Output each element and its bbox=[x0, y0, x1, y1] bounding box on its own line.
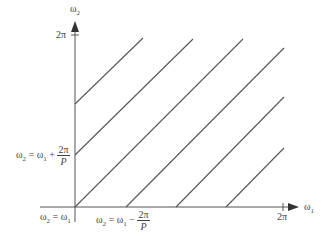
diagonal-line-5 bbox=[176, 97, 284, 207]
diagonal-annotation: ω2 = ω1 bbox=[40, 211, 71, 225]
diagonal-line-3 bbox=[75, 39, 243, 207]
x-max-tick-label: 2π bbox=[277, 211, 287, 222]
x-axis-arrow-icon bbox=[288, 203, 299, 211]
x-axis-label: ω1 bbox=[304, 201, 314, 215]
y-axis-label: ω2 bbox=[70, 3, 80, 17]
lower-line-annotation: ω2 = ω1 − 2πP bbox=[96, 209, 150, 232]
diagram-canvas bbox=[0, 0, 332, 239]
upper-line-annotation: ω2 = ω1 + 2πP bbox=[16, 144, 70, 167]
fraction: 2πP bbox=[57, 144, 69, 167]
y-max-tick-label: 2π bbox=[56, 29, 66, 40]
diagonal-line-1 bbox=[75, 38, 143, 104]
fraction: 2πP bbox=[137, 209, 149, 232]
diagonal-lines bbox=[75, 38, 284, 207]
y-axis-arrow-icon bbox=[71, 21, 79, 32]
diagonal-line-4 bbox=[126, 48, 284, 207]
diagonal-line-2 bbox=[75, 39, 193, 155]
diagonal-line-6 bbox=[226, 148, 284, 207]
